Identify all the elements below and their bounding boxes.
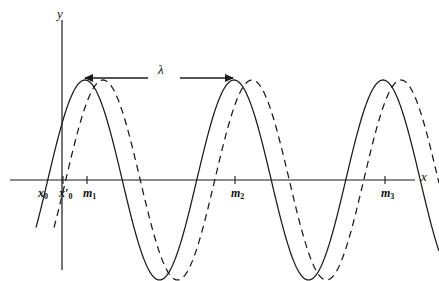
tick-label-x0prime: x′0 xyxy=(59,186,72,201)
plot-canvas xyxy=(0,0,439,281)
tick-label-m3: m3 xyxy=(381,186,394,201)
x-axis-label: x xyxy=(421,169,427,185)
lambda-label: λ xyxy=(158,62,164,78)
tick-label-m2: m2 xyxy=(231,186,244,201)
wave-diagram-figure: y x λ x0x′0m1m2m3 xyxy=(0,0,439,281)
tick-label-x0: x0 xyxy=(38,186,48,201)
y-axis-label: y xyxy=(57,6,63,22)
tick-label-m1: m1 xyxy=(83,186,96,201)
